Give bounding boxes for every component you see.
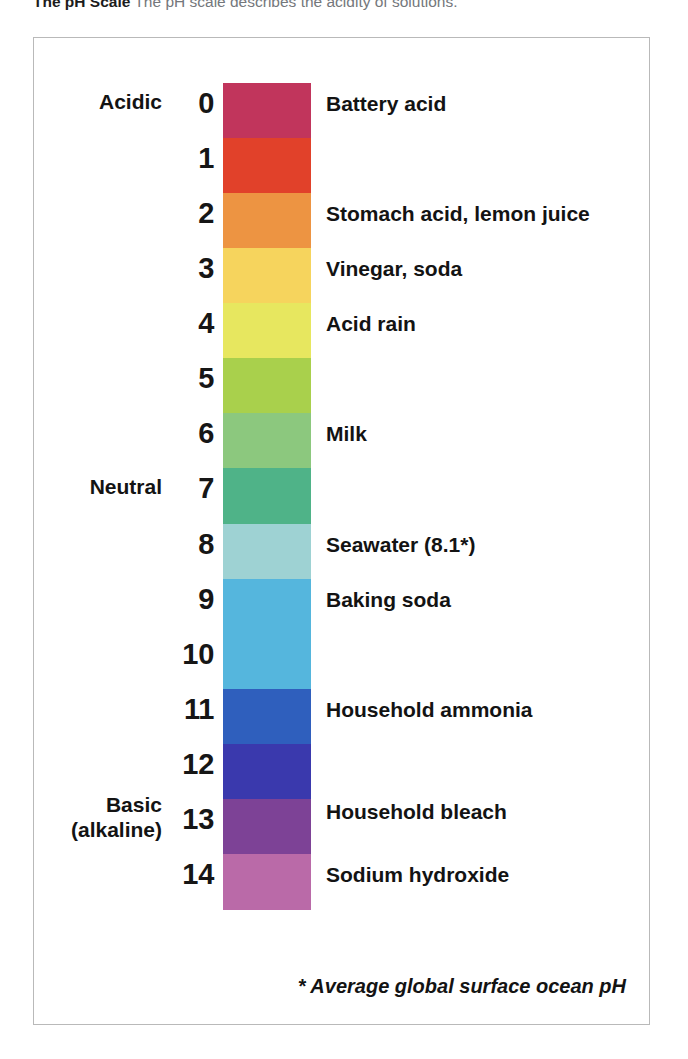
ph-band-13 <box>223 799 311 855</box>
figure-caption-title: The pH Scale <box>33 0 130 10</box>
substance-label-milk: Milk <box>326 421 367 447</box>
ph-value-12: 12 <box>170 750 214 779</box>
figure-caption: The pH Scale The pH scale describes the … <box>33 0 673 13</box>
substance-label-seawater: Seawater (8.1*) <box>326 532 475 558</box>
ph-band-10 <box>223 634 311 690</box>
ph-band-1 <box>223 138 311 194</box>
ph-value-10: 10 <box>170 640 214 669</box>
category-label-basic-line-1: (alkaline) <box>34 817 162 842</box>
substance-label-stomach-acid: Stomach acid, lemon juice <box>326 201 590 227</box>
ph-band-7 <box>223 468 311 524</box>
substance-label-acid-rain: Acid rain <box>326 311 416 337</box>
ph-scale: AcidicNeutralBasic(alkaline) 01234567891… <box>34 38 651 1026</box>
figure-caption-description: The pH scale describes the acidity of so… <box>134 0 457 10</box>
ph-value-14: 14 <box>170 860 214 889</box>
ph-band-11 <box>223 689 311 745</box>
ph-value-8: 8 <box>170 530 214 559</box>
category-label-neutral: Neutral <box>34 474 162 499</box>
substance-label-baking-soda: Baking soda <box>326 587 451 613</box>
substance-label-vinegar-soda: Vinegar, soda <box>326 256 462 282</box>
category-label-basic: Basic(alkaline) <box>34 792 162 842</box>
ph-band-5 <box>223 358 311 414</box>
substance-label-household-ammonia: Household ammonia <box>326 697 533 723</box>
ph-band-8 <box>223 524 311 580</box>
ph-band-3 <box>223 248 311 304</box>
ph-value-0: 0 <box>170 89 214 118</box>
ph-band-14 <box>223 854 311 910</box>
ph-band-12 <box>223 744 311 800</box>
category-label-acidic-line-0: Acidic <box>34 89 162 114</box>
ph-value-3: 3 <box>170 254 214 283</box>
ph-value-2: 2 <box>170 199 214 228</box>
ph-value-6: 6 <box>170 419 214 448</box>
ph-value-1: 1 <box>170 144 214 173</box>
category-label-neutral-line-0: Neutral <box>34 474 162 499</box>
ph-value-5: 5 <box>170 364 214 393</box>
ph-value-13: 13 <box>170 805 214 834</box>
ph-value-9: 9 <box>170 585 214 614</box>
ph-color-bar <box>223 83 311 909</box>
ph-band-4 <box>223 303 311 359</box>
substance-label-household-bleach: Household bleach <box>326 799 507 825</box>
ph-band-2 <box>223 193 311 249</box>
ph-value-4: 4 <box>170 309 214 338</box>
substance-label-battery-acid: Battery acid <box>326 91 446 117</box>
ph-band-6 <box>223 413 311 469</box>
category-label-basic-line-0: Basic <box>34 792 162 817</box>
footnote: * Average global surface ocean pH <box>298 975 626 998</box>
substance-label-sodium-hydroxide: Sodium hydroxide <box>326 862 509 888</box>
category-label-acidic: Acidic <box>34 89 162 114</box>
ph-value-11: 11 <box>170 695 214 724</box>
ph-band-0 <box>223 83 311 139</box>
ph-band-9 <box>223 579 311 635</box>
diagram-frame: AcidicNeutralBasic(alkaline) 01234567891… <box>33 37 650 1025</box>
ph-value-7: 7 <box>170 474 214 503</box>
